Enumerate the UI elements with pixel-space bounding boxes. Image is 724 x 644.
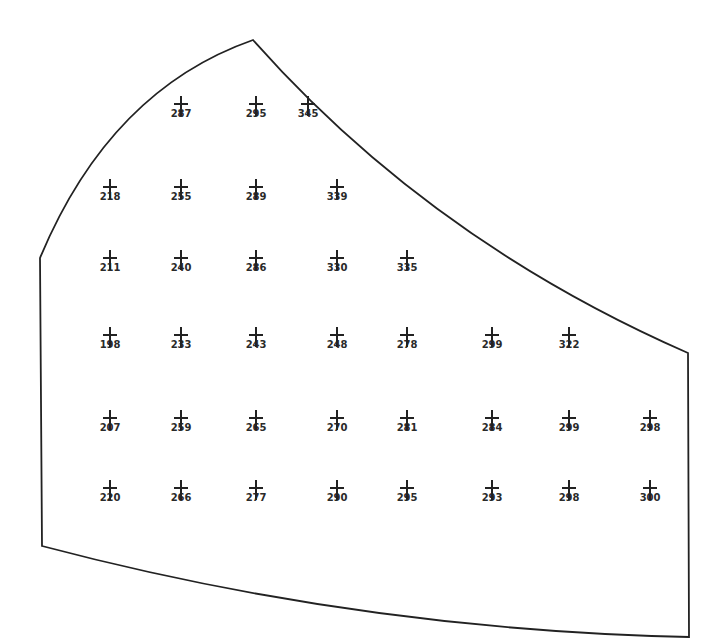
measurement-point: 277 (236, 480, 276, 504)
plus-marker-icon (172, 480, 190, 502)
measurement-point: 300 (630, 480, 670, 504)
plus-marker-icon (247, 410, 265, 432)
measurement-point: 220 (90, 480, 130, 504)
measurement-point: 330 (317, 250, 357, 274)
measurement-point: 339 (317, 179, 357, 203)
plus-marker-icon (101, 410, 119, 432)
measurement-point: 299 (472, 327, 512, 351)
measurement-point: 284 (472, 410, 512, 434)
plus-marker-icon (560, 410, 578, 432)
plus-marker-icon (328, 179, 346, 201)
plus-marker-icon (398, 410, 416, 432)
measurement-point: 286 (236, 250, 276, 274)
measurement-point: 295 (236, 96, 276, 120)
plus-marker-icon (247, 179, 265, 201)
plus-marker-icon (247, 327, 265, 349)
measurement-point: 270 (317, 410, 357, 434)
room-boundary (40, 40, 689, 637)
measurement-point: 218 (90, 179, 130, 203)
measurement-point: 266 (161, 480, 201, 504)
measurement-point: 233 (161, 327, 201, 351)
measurement-point: 255 (161, 179, 201, 203)
measurement-point: 265 (236, 410, 276, 434)
measurement-point: 207 (90, 410, 130, 434)
measurement-point: 322 (549, 327, 589, 351)
plus-marker-icon (172, 410, 190, 432)
plus-marker-icon (641, 410, 659, 432)
plus-marker-icon (328, 327, 346, 349)
measurement-point: 248 (317, 327, 357, 351)
plus-marker-icon (398, 250, 416, 272)
plus-marker-icon (398, 327, 416, 349)
boundary-outline (0, 0, 724, 644)
measurement-point: 240 (161, 250, 201, 274)
measurement-point: 243 (236, 327, 276, 351)
measurement-point: 198 (90, 327, 130, 351)
plus-marker-icon (172, 327, 190, 349)
plus-marker-icon (398, 480, 416, 502)
plus-marker-icon (101, 480, 119, 502)
measurement-point: 295 (387, 480, 427, 504)
measurement-point: 287 (161, 96, 201, 120)
measurement-point: 290 (317, 480, 357, 504)
plus-marker-icon (101, 327, 119, 349)
plus-marker-icon (247, 96, 265, 118)
plus-marker-icon (483, 327, 501, 349)
plus-marker-icon (483, 410, 501, 432)
plus-marker-icon (172, 250, 190, 272)
plus-marker-icon (172, 96, 190, 118)
plus-marker-icon (641, 480, 659, 502)
plus-marker-icon (172, 179, 190, 201)
measurement-point: 293 (472, 480, 512, 504)
measurement-point: 299 (549, 410, 589, 434)
plus-marker-icon (247, 480, 265, 502)
plus-marker-icon (560, 327, 578, 349)
plus-marker-icon (328, 480, 346, 502)
plus-marker-icon (483, 480, 501, 502)
plus-marker-icon (328, 250, 346, 272)
plus-marker-icon (101, 179, 119, 201)
measurement-point: 281 (387, 410, 427, 434)
measurement-point: 345 (288, 96, 328, 120)
measurement-point: 298 (549, 480, 589, 504)
measurement-point: 278 (387, 327, 427, 351)
plus-marker-icon (560, 480, 578, 502)
measurement-point: 335 (387, 250, 427, 274)
plus-marker-icon (299, 96, 317, 118)
plus-marker-icon (328, 410, 346, 432)
measurement-point: 298 (630, 410, 670, 434)
measurement-point: 259 (161, 410, 201, 434)
plus-marker-icon (247, 250, 265, 272)
measurement-point: 211 (90, 250, 130, 274)
measurement-point: 289 (236, 179, 276, 203)
plus-marker-icon (101, 250, 119, 272)
